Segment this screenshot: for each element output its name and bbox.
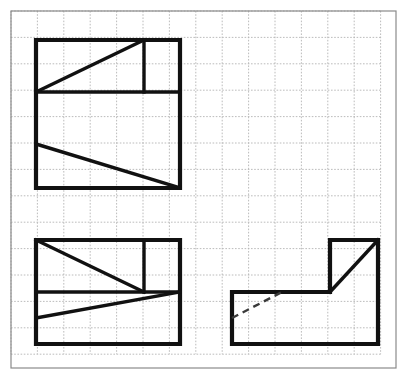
figure-svg	[0, 0, 407, 381]
canvas-background	[0, 0, 407, 381]
drawing-canvas	[0, 0, 407, 381]
